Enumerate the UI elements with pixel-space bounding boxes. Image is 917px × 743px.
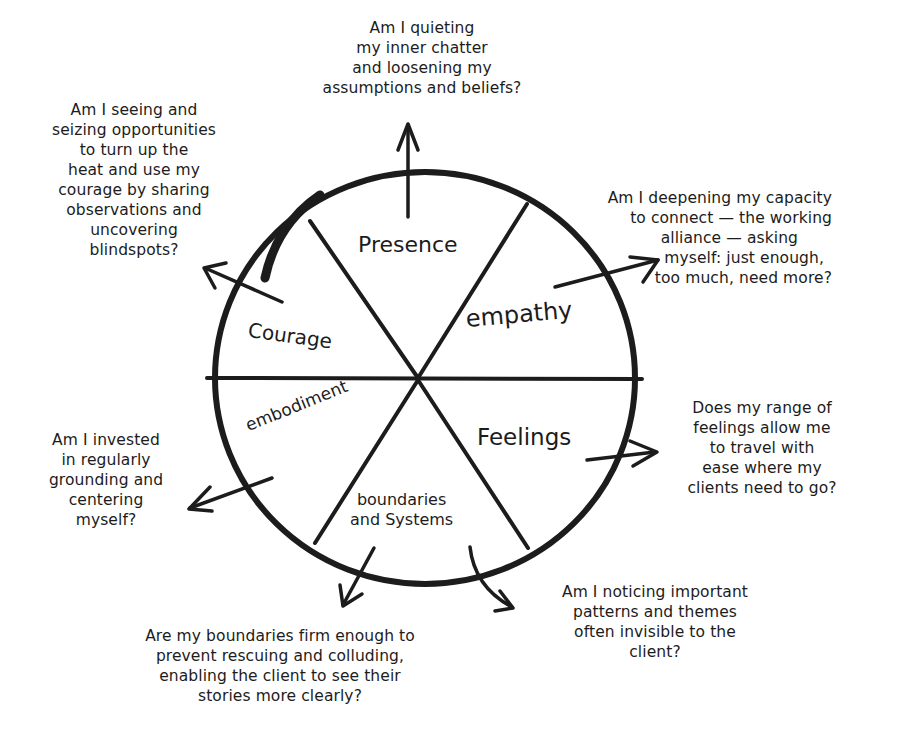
question-line: ease where my (662, 458, 862, 478)
question-line: myself: just enough, (592, 248, 832, 268)
question-line: client? (530, 642, 780, 662)
question-line: Am I quieting (302, 18, 542, 38)
question-line: clients need to go? (662, 478, 862, 498)
question-line: blindspots? (24, 240, 244, 260)
spoke-upper-right (418, 204, 527, 378)
question-line: Am I noticing important (530, 582, 780, 602)
question-line: too much, need more? (592, 268, 832, 288)
question-line: feelings allow me (662, 418, 862, 438)
segment-label-boundaries: boundaries and Systems (350, 490, 453, 530)
question-line: centering (26, 490, 186, 510)
question-line: heat and use my (24, 160, 244, 180)
question-line: to travel with (662, 438, 862, 458)
question-line: Am I deepening my capacity (592, 188, 832, 208)
segment-label-feelings: Feelings (477, 424, 571, 450)
question-empathy: Am I deepening my capacity to connect — … (592, 188, 832, 288)
question-embodiment: Am I invested in regularly grounding and… (26, 430, 186, 530)
question-line: often invisible to the (530, 622, 780, 642)
question-line: patterns and themes (530, 602, 780, 622)
question-line: and loosening my (302, 58, 542, 78)
segment-label-presence: Presence (358, 232, 458, 257)
question-line: Am I seeing and (24, 100, 244, 120)
question-line: myself? (26, 510, 186, 530)
question-line: Am I invested (26, 430, 186, 450)
question-feelings: Does my range of feelings allow me to tr… (662, 398, 862, 498)
question-line: Are my boundaries firm enough to (105, 626, 455, 646)
question-line: stories more clearly? (105, 686, 455, 706)
question-line: observations and (24, 200, 244, 220)
segment-label-boundaries-line1: boundaries (350, 490, 453, 510)
question-line: assumptions and beliefs? (302, 78, 542, 98)
segment-label-boundaries-line2: and Systems (350, 510, 453, 530)
question-line: alliance — asking (592, 228, 832, 248)
question-line: courage by sharing (24, 180, 244, 200)
question-line: enabling the client to see their (105, 666, 455, 686)
coaching-wheel-diagram: Presence empathy Feelings boundaries and… (0, 0, 917, 743)
question-courage: Am I seeing and seizing opportunities to… (24, 100, 244, 260)
question-line: to connect — the working (592, 208, 832, 228)
question-boundaries: Are my boundaries firm enough to prevent… (105, 626, 455, 706)
question-line: Does my range of (662, 398, 862, 418)
question-line: in regularly (26, 450, 186, 470)
question-line: seizing opportunities (24, 120, 244, 140)
question-line: my inner chatter (302, 38, 542, 58)
question-line: prevent rescuing and colluding, (105, 646, 455, 666)
question-line: uncovering (24, 220, 244, 240)
question-presence: Am I quieting my inner chatter and loose… (302, 18, 542, 98)
question-line: to turn up the (24, 140, 244, 160)
question-systems: Am I noticing important patterns and the… (530, 582, 780, 662)
question-line: grounding and (26, 470, 186, 490)
spoke-horizontal (207, 378, 642, 379)
